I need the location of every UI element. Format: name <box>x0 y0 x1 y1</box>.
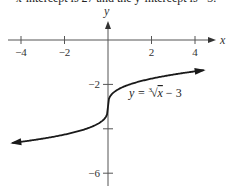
x-axis-arrow-icon <box>208 37 216 43</box>
y-tick-label: −6 <box>88 167 100 179</box>
x-tick-label: 2 <box>149 46 155 58</box>
curve-left-arrow-icon <box>10 138 21 145</box>
x-axis-label: x <box>219 33 226 47</box>
equation-label: y = 3√x − 3 <box>128 86 182 100</box>
y-tick-label: −2 <box>88 78 100 90</box>
x-axis: x <box>8 33 226 47</box>
y-ticks: −2−6 <box>88 78 113 179</box>
x-tick-label: −4 <box>15 46 27 58</box>
x-tick-label: −2 <box>59 46 71 58</box>
x-tick-label: 4 <box>192 46 198 58</box>
y-axis-label: y <box>103 4 110 18</box>
curve-right-arrow-icon <box>194 68 205 75</box>
y-axis: y <box>103 4 111 186</box>
y-axis-arrow-icon <box>105 21 111 29</box>
x-ticks: −4−224 <box>15 36 198 58</box>
cube-root-graph: x y −4−224 −2−6 y = 3√x − 3 <box>0 0 232 191</box>
